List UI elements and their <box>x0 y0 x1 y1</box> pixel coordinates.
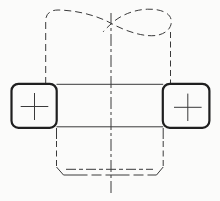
boss-right-chamfer <box>157 167 164 175</box>
boss-left-chamfer <box>57 167 64 175</box>
right-boss-square <box>163 84 210 128</box>
drawing-canvas <box>0 0 220 201</box>
cylinder-break-outline <box>46 9 172 84</box>
technical-drawing <box>0 0 220 201</box>
